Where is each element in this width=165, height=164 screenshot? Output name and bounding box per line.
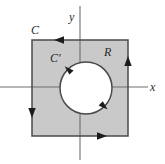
- label-y-axis: y: [69, 11, 74, 23]
- label-x-axis: x: [150, 81, 155, 93]
- figure-canvas: [0, 0, 165, 164]
- green-theorem-figure: C C′ R y x: [0, 0, 165, 164]
- label-region-R: R: [104, 46, 111, 58]
- label-inner-curve-C-prime: C′: [50, 52, 61, 64]
- label-outer-curve-C: C: [31, 24, 39, 36]
